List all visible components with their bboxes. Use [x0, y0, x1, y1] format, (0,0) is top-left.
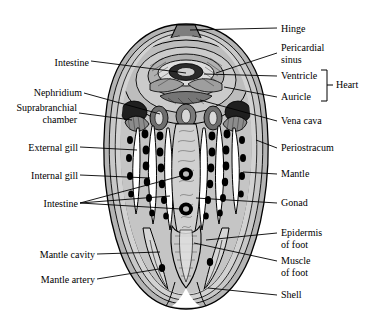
label-internal-gill: Internal gill: [0, 170, 78, 182]
label-mantle: Mantle: [281, 168, 309, 180]
label-epidermis-of-foot: Epidermis of foot: [281, 227, 322, 250]
label-intestine-upper: Intestine: [0, 57, 89, 69]
label-auricle: Auricle: [281, 91, 311, 103]
gonad-visceral-mass: [172, 124, 201, 247]
mantle-artery-lumen-right: [207, 258, 213, 266]
label-ventricle: Ventricle: [281, 70, 317, 82]
figure-root: Intestine Nephridium Suprabranchial cham…: [0, 0, 373, 318]
label-mantle-artery: Mantle artery: [0, 274, 95, 286]
label-vena-cava: Vena cava: [281, 115, 322, 127]
label-shell: Shell: [281, 289, 302, 301]
label-mantle-cavity: Mantle cavity: [0, 249, 95, 261]
label-periostracum: Periostracum: [281, 142, 334, 154]
label-intestine-lower: Intestine: [0, 198, 78, 210]
label-muscle-of-foot: Muscle of foot: [281, 255, 310, 278]
label-nephridium: Nephridium: [0, 87, 82, 99]
label-hinge: Hinge: [281, 23, 305, 35]
label-pericardial-sinus: Pericardial sinus: [281, 42, 324, 65]
label-suprabranchial-chamber: Suprabranchial chamber: [0, 102, 77, 125]
label-gonad: Gonad: [281, 197, 308, 209]
label-heart-bracket: Heart: [336, 79, 358, 91]
label-external-gill: External gill: [0, 142, 78, 154]
heart-bracket-shape: [321, 70, 333, 101]
